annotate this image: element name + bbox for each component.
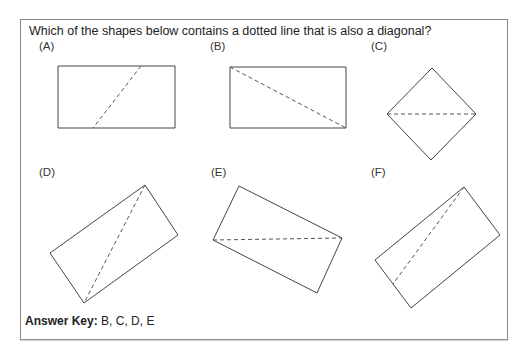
answer-key: Answer Key: B, C, D, E [25, 314, 154, 328]
answer-key-value: B, C, D, E [98, 314, 155, 328]
shapes-canvas [0, 0, 526, 354]
shape-d [50, 185, 178, 303]
shape-f-dashed-line [393, 187, 464, 284]
shape-f-outline [375, 187, 500, 308]
shape-e-dashed-line [213, 238, 342, 240]
answer-key-label: Answer Key: [25, 314, 98, 328]
shape-a-outline [58, 66, 175, 128]
shape-b [230, 67, 346, 128]
shape-c [387, 68, 476, 160]
shape-f [375, 187, 500, 308]
shape-a [58, 66, 175, 128]
shape-a-dashed-line [93, 66, 141, 128]
shape-e [213, 186, 342, 293]
shape-d-dashed-line [84, 185, 145, 303]
shape-b-dashed-line [230, 67, 346, 128]
